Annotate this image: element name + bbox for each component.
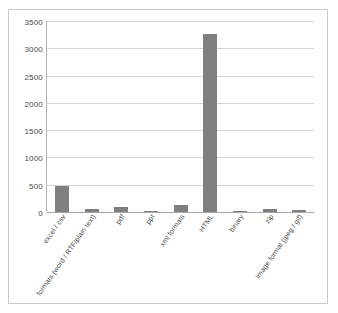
bar-slot: [195, 21, 225, 212]
bars-group: [47, 21, 314, 212]
x-axis-tick-label: image format (jpeg / gif): [254, 213, 304, 280]
x-axis-tick-label: excel / csv: [41, 213, 66, 245]
plot-area: 0500100015002000250030003500: [46, 21, 314, 212]
bar-slot: [47, 21, 77, 212]
bar-slot: [106, 21, 136, 212]
bar[interactable]: [203, 34, 217, 212]
bar-slot: [225, 21, 255, 212]
bar-slot: [284, 21, 314, 212]
y-axis-tick-label: 1500: [24, 127, 43, 136]
bar[interactable]: [85, 209, 99, 212]
y-axis-tick-label: 2000: [24, 99, 43, 108]
bar-slot: [166, 21, 196, 212]
chart-frame: 0500100015002000250030003500 excel / csv…: [8, 9, 328, 304]
x-axis-labels-group: excel / csvformats (word / RTF/plain tex…: [46, 213, 314, 303]
bar[interactable]: [114, 207, 128, 212]
bar[interactable]: [292, 210, 306, 212]
bar[interactable]: [55, 186, 69, 212]
bar-slot: [255, 21, 285, 212]
y-axis-tick-label: 0: [38, 209, 43, 218]
x-axis-tick-label: formats (word / RTF/plain text): [35, 213, 97, 297]
y-axis-tick-label: 3500: [24, 18, 43, 27]
x-axis-tick-label: pdf: [114, 213, 125, 225]
y-axis-tick-label: 2500: [24, 72, 43, 81]
x-axis-tick-label: ppt: [144, 213, 155, 225]
y-axis-tick-label: 500: [29, 181, 43, 190]
x-axis-tick-label: HTML: [198, 213, 215, 233]
x-axis-tick-label: zip: [263, 213, 274, 225]
bar-slot: [136, 21, 166, 212]
bar[interactable]: [174, 205, 188, 212]
bar[interactable]: [263, 209, 277, 212]
y-axis-tick-label: 1000: [24, 154, 43, 163]
x-axis-tick-label: xml formats: [158, 213, 185, 248]
x-axis-tick-label: binary: [228, 213, 245, 233]
bar[interactable]: [144, 211, 158, 212]
y-axis-tick-label: 3000: [24, 45, 43, 54]
bar-slot: [77, 21, 107, 212]
bar[interactable]: [233, 211, 247, 212]
